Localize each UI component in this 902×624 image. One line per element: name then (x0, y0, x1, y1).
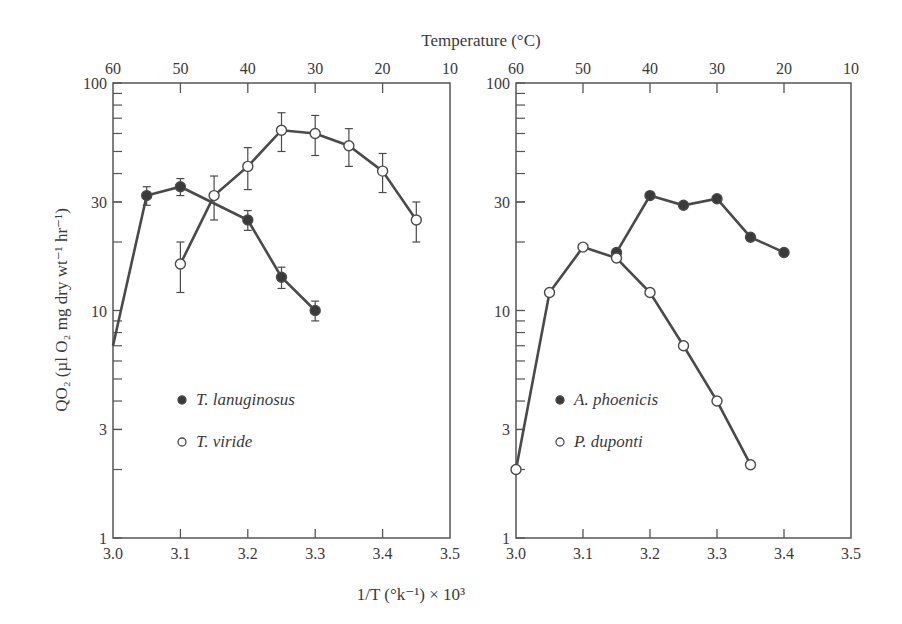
top-tick-label: 60 (105, 60, 121, 77)
open-marker (175, 259, 185, 269)
filled-marker (779, 247, 789, 257)
legend-label: T. viride (196, 432, 253, 451)
x-tick-label: 3.2 (238, 545, 258, 562)
x-tick-label: 3.0 (103, 545, 123, 562)
y-tick-label: 1 (502, 530, 510, 547)
open-marker (378, 166, 388, 176)
series-line (617, 196, 785, 253)
open-marker (277, 125, 287, 135)
top-tick-label: 40 (240, 60, 256, 77)
y-axis-title: QO₂ (µl O₂ mg dry wt⁻¹ hr⁻¹) (52, 208, 71, 412)
top-tick-label: 50 (575, 60, 591, 77)
plot-frame (516, 83, 851, 538)
top-tick-label: 10 (843, 60, 859, 77)
open-marker (243, 161, 253, 171)
open-marker (679, 341, 689, 351)
filled-marker (243, 215, 253, 225)
top-tick-label: 60 (508, 60, 524, 77)
legend-marker-icon (556, 396, 564, 404)
x-tick-label: 3.4 (774, 545, 794, 562)
legend-marker-icon (178, 396, 186, 404)
filled-marker (712, 194, 722, 204)
x-tick-label: 3.1 (573, 545, 593, 562)
open-marker (411, 215, 421, 225)
y-tick-label: 3 (99, 421, 107, 438)
top-tick-label: 30 (307, 60, 323, 77)
legend-label: P. duponti (573, 432, 643, 451)
top-tick-label: 40 (642, 60, 658, 77)
legend-marker-icon (178, 438, 186, 446)
x-tick-label: 3.3 (305, 545, 325, 562)
x-tick-label: 3.1 (170, 545, 190, 562)
x-tick-label: 3.2 (640, 545, 660, 562)
filled-marker (175, 182, 185, 192)
top-tick-label: 20 (375, 60, 391, 77)
y-tick-label: 10 (494, 303, 510, 320)
open-marker (712, 396, 722, 406)
open-marker (578, 242, 588, 252)
y-tick-label: 3 (502, 421, 510, 438)
open-marker (746, 460, 756, 470)
y-tick-label: 30 (494, 194, 510, 211)
x-tick-label: 3.0 (506, 545, 526, 562)
right-panel: 3.03.13.23.33.43.5605040302010131030100A… (486, 60, 861, 562)
y-tick-label: 1 (99, 530, 107, 547)
x-tick-label: 3.5 (440, 545, 460, 562)
open-marker (645, 287, 655, 297)
top-axis-title: Temperature (°C) (421, 31, 540, 50)
x-tick-label: 3.3 (707, 545, 727, 562)
qo2-temperature-figure: Temperature (°C) 1/T (°k⁻¹) × 10³ QO₂ (µ… (0, 0, 902, 624)
legend-label: A. phoenicis (573, 390, 658, 409)
filled-marker (277, 272, 287, 282)
filled-marker (746, 232, 756, 242)
filled-marker (645, 191, 655, 201)
filled-marker (310, 306, 320, 316)
top-tick-label: 20 (776, 60, 792, 77)
bottom-axis-title: 1/T (°k⁻¹) × 10³ (357, 585, 465, 604)
filled-marker (142, 191, 152, 201)
open-marker (310, 128, 320, 138)
open-marker (511, 465, 521, 475)
open-marker (344, 141, 354, 151)
top-tick-label: 50 (172, 60, 188, 77)
top-tick-label: 30 (709, 60, 725, 77)
filled-marker (679, 200, 689, 210)
y-tick-label: 10 (91, 303, 107, 320)
x-tick-label: 3.5 (841, 545, 861, 562)
open-marker (209, 191, 219, 201)
y-tick-label: 100 (486, 75, 510, 92)
y-tick-label: 100 (83, 75, 107, 92)
legend-marker-icon (556, 438, 564, 446)
left-panel: 3.03.13.23.33.43.5605040302010131030100T… (83, 60, 460, 562)
open-marker (545, 287, 555, 297)
x-tick-label: 3.4 (373, 545, 393, 562)
legend-label: T. lanuginosus (196, 390, 295, 409)
open-marker (612, 253, 622, 263)
y-tick-label: 30 (91, 194, 107, 211)
top-tick-label: 10 (442, 60, 458, 77)
